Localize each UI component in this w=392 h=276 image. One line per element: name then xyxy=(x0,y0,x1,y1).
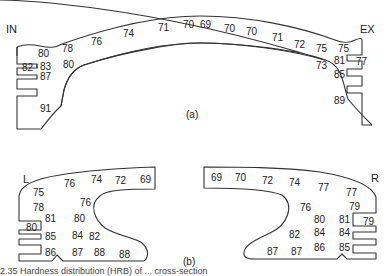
hardness-value: 70 xyxy=(246,26,258,37)
hardness-value: 75 xyxy=(316,43,328,54)
hardness-value: 82 xyxy=(89,231,101,242)
hardness-value: 85 xyxy=(45,231,57,242)
hardness-value: 74 xyxy=(91,174,103,185)
hardness-value: 85 xyxy=(339,242,351,253)
figure-a: IN EX (a) 807876747170697070717275758283… xyxy=(0,0,375,129)
hardness-value: 69 xyxy=(200,19,212,30)
hardness-value: 80 xyxy=(38,48,50,59)
figure-a-label: (a) xyxy=(186,109,198,120)
hardness-value: 82 xyxy=(289,229,301,240)
figure-b-left-outline xyxy=(19,167,155,261)
hardness-value: 87 xyxy=(40,71,52,82)
hardness-value: 72 xyxy=(262,175,274,186)
hardness-value: 76 xyxy=(64,178,76,189)
hardness-value: 71 xyxy=(158,22,170,33)
side-label-r: R xyxy=(371,172,379,184)
side-label-l: L xyxy=(23,173,29,185)
hardness-value: 70 xyxy=(183,19,195,30)
hardness-value: 74 xyxy=(289,177,301,188)
hardness-value: 74 xyxy=(123,28,135,39)
hardness-value: 87 xyxy=(291,246,303,257)
hardness-value: 70 xyxy=(235,172,247,183)
figure-caption: 2.35 Hardness distribution (HRB) of ... … xyxy=(0,266,208,276)
hardness-value: 79 xyxy=(349,201,361,212)
side-label-ex: EX xyxy=(360,23,375,35)
hardness-value: 81 xyxy=(334,55,346,66)
hardness-value: 86 xyxy=(45,247,57,258)
hardness-value: 75 xyxy=(33,187,45,198)
hardness-value: 80 xyxy=(314,214,326,225)
hardness-value: 71 xyxy=(272,32,284,43)
hardness-value: 81 xyxy=(45,213,57,224)
hardness-value: 69 xyxy=(211,172,223,183)
hardness-value: 77 xyxy=(318,182,330,193)
hardness-value: 91 xyxy=(40,103,52,114)
hardness-value: 82 xyxy=(22,62,34,73)
hardness-value: 80 xyxy=(26,222,38,233)
hardness-value: 70 xyxy=(224,23,236,34)
figure-b-values: 7578767472697681808085848286878888697072… xyxy=(26,172,375,260)
hardness-value: 76 xyxy=(80,197,92,208)
hardness-value: 78 xyxy=(62,43,74,54)
hardness-value: 72 xyxy=(115,175,127,186)
hardness-value: 76 xyxy=(91,36,103,47)
hardness-value: 77 xyxy=(356,56,368,67)
hardness-value: 81 xyxy=(339,214,351,225)
hardness-value: 77 xyxy=(346,187,358,198)
hardness-value: 72 xyxy=(294,39,306,50)
hardness-value: 87 xyxy=(267,246,279,257)
hardness-value: 88 xyxy=(119,249,131,260)
hardness-value: 85 xyxy=(334,69,346,80)
side-label-in: IN xyxy=(6,23,17,35)
hardness-value: 84 xyxy=(72,230,84,241)
hardness-value: 88 xyxy=(94,247,106,258)
hardness-value: 69 xyxy=(140,174,152,185)
hardness-value: 87 xyxy=(72,247,84,258)
hardness-value: 84 xyxy=(314,227,326,238)
hardness-value: 76 xyxy=(300,202,312,213)
hardness-value: 86 xyxy=(314,242,326,253)
figure-a-inner-arch xyxy=(61,43,372,125)
hardness-value: 73 xyxy=(316,60,328,71)
hardness-value: 84 xyxy=(339,227,351,238)
hardness-value: 75 xyxy=(338,43,350,54)
hardness-value: 79 xyxy=(363,216,375,227)
hardness-value: 80 xyxy=(74,213,86,224)
hardness-value: 89 xyxy=(334,95,346,106)
hardness-value: 78 xyxy=(33,202,45,213)
hardness-value: 80 xyxy=(63,59,75,70)
